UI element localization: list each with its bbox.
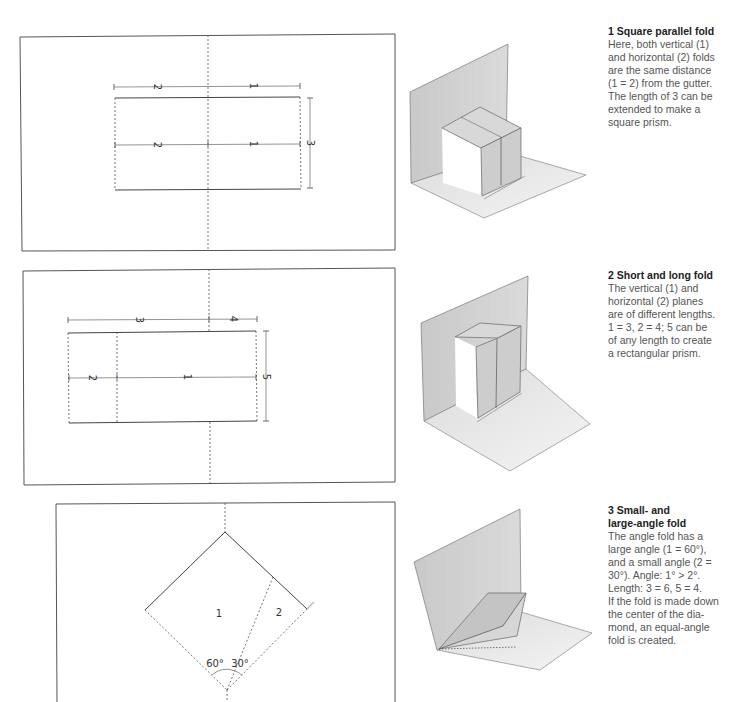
dim-label: 5 xyxy=(261,374,272,380)
region-label: 2 xyxy=(276,607,282,618)
dim-label: 2 xyxy=(152,84,163,90)
dim-label: 1 xyxy=(182,374,193,380)
caption-body: Here, both vertical (1) and horizontal (… xyxy=(608,38,736,129)
angle-label: 30° xyxy=(231,658,249,669)
caption-body: The angle fold has a large angle (1 = 60… xyxy=(608,530,736,647)
dim-label: 2 xyxy=(87,375,98,381)
fold-2-3d-view xyxy=(421,276,590,471)
caption-fold-3: 3 Small- and large-angle fold The angle … xyxy=(608,504,736,647)
fold-1-template: 2 1 2 1 3 xyxy=(20,34,395,251)
fold-1-3d-view xyxy=(410,44,586,218)
dim-label: 2 xyxy=(152,142,163,148)
dim-label: 1 xyxy=(248,83,259,89)
angle-label: 60° xyxy=(206,658,224,669)
fold-3-3d-view xyxy=(414,509,592,670)
card-outline xyxy=(23,268,395,485)
dim-label: 1 xyxy=(248,141,259,147)
region-label: 1 xyxy=(216,608,222,619)
caption-body: The vertical (1) and horizontal (2) plan… xyxy=(608,282,736,360)
caption-fold-2: 2 Short and long fold The vertical (1) a… xyxy=(608,269,736,360)
caption-title: 1 Square parallel fold xyxy=(608,25,736,38)
caption-title: 2 Short and long fold xyxy=(608,269,736,282)
dim-label: 3 xyxy=(134,317,145,323)
dim-label: 3 xyxy=(305,140,316,146)
fold-2-template: 3 4 2 1 5 xyxy=(23,268,395,485)
dim-label: 4 xyxy=(228,316,239,322)
caption-fold-1: 1 Square parallel fold Here, both vertic… xyxy=(608,25,736,129)
fold-3-template: 1 2 60° 30° xyxy=(56,502,395,702)
caption-title: 3 Small- and large-angle fold xyxy=(608,504,736,530)
